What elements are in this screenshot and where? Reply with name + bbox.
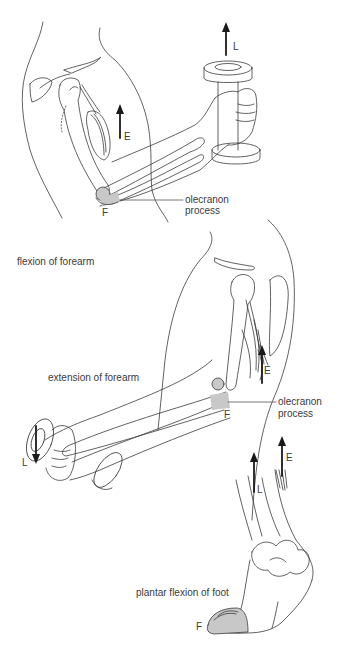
- extension-load-label: L: [22, 457, 28, 468]
- flexion-fulcrum-label: F: [102, 207, 108, 218]
- flexion-load-label: L: [233, 41, 239, 52]
- plantar-load-label: L: [257, 484, 263, 495]
- plantar-caption: plantar flexion of foot: [136, 587, 229, 598]
- extension-callout-line2: process: [278, 408, 313, 419]
- extension-caption: extension of forearm: [48, 372, 139, 383]
- plantar-arrows: [250, 436, 286, 492]
- flexion-arrows: [116, 22, 230, 138]
- extension-fulcrum-label: F: [224, 409, 230, 420]
- anatomy-drawing: [0, 0, 338, 650]
- flexion-callout-line1: olecranon: [185, 194, 229, 205]
- flexion-caption: flexion of forearm: [17, 256, 94, 267]
- flexion-callout-line2: process: [185, 205, 220, 216]
- lever-diagram: E L F olecranon process flexion of forea…: [0, 0, 338, 650]
- extension-effort-label: E: [264, 365, 271, 376]
- extension-callout-line1: olecranon: [278, 396, 322, 407]
- plantar-fulcrum-label: F: [196, 621, 202, 632]
- flexion-effort-label: E: [124, 131, 131, 142]
- flexion-illustration: [22, 22, 260, 222]
- plantar-effort-label: E: [286, 452, 293, 463]
